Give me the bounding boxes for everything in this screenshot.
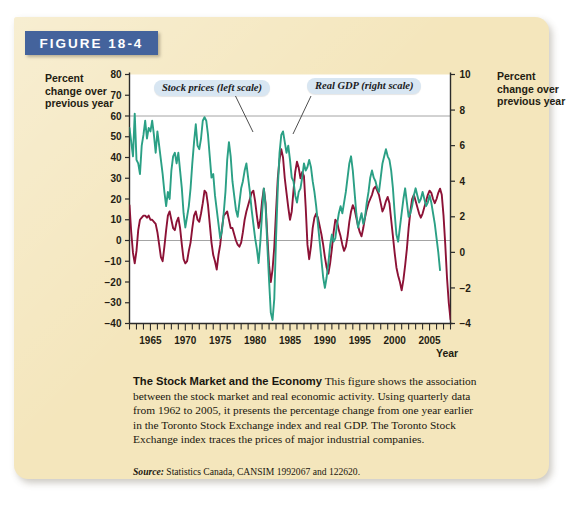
left-axis-tick-label: 40	[110, 152, 122, 163]
x-axis-tick-label: 1990	[314, 335, 337, 346]
callout-real-gdp: Real GDP (right scale)	[307, 78, 421, 94]
left-axis-tick-label: 80	[110, 69, 122, 80]
left-axis-tick-label: −30	[105, 297, 122, 308]
figure-root: FIGURE 18-4 Percent change over previous…	[0, 0, 580, 517]
left-axis-tick-label: 20	[110, 194, 122, 205]
right-axis-tick-label: 4	[460, 176, 466, 187]
x-axis-tick-label: 1995	[349, 335, 372, 346]
right-axis-tick-label: 10	[460, 69, 472, 80]
x-axis-tick-label: 1985	[279, 335, 302, 346]
left-axis-tick-label: −40	[105, 318, 122, 329]
figure-source: Source: Statistics Canada, CANSIM 199206…	[133, 466, 493, 477]
figure-caption: The Stock Market and the Economy This fi…	[133, 374, 481, 447]
x-axis-tick-label: 1975	[209, 335, 232, 346]
right-axis-tick-label: 2	[460, 211, 466, 222]
left-axis-tick-label: 0	[116, 235, 122, 246]
right-axis-tick-label: −4	[460, 318, 472, 329]
callout-stock-prices: Stock prices (left scale)	[154, 80, 270, 96]
x-axis-tick-label: 1970	[174, 335, 197, 346]
left-axis-tick-label: 10	[110, 214, 122, 225]
left-axis-tick-label: 70	[110, 90, 122, 101]
left-axis-tick-label: −10	[105, 256, 122, 267]
x-axis-tick-label: 2005	[418, 335, 441, 346]
right-axis-tick-label: 8	[460, 105, 466, 116]
x-axis-tick-label: 1980	[244, 335, 267, 346]
left-axis-tick-label: −20	[105, 277, 122, 288]
right-axis-tick-label: −2	[460, 283, 472, 294]
source-label: Source:	[133, 466, 164, 477]
left-axis-tick-label: 30	[110, 173, 122, 184]
x-axis-tick-label: 2000	[384, 335, 407, 346]
caption-title: The Stock Market and the Economy	[133, 375, 322, 387]
left-axis-tick-label: 60	[110, 111, 122, 122]
right-axis-tick-label: 0	[460, 247, 466, 258]
x-axis-tick-label: 1965	[139, 335, 162, 346]
left-axis-tick-label: 50	[110, 131, 122, 142]
source-text: Statistics Canada, CANSIM 1992067 and 12…	[166, 466, 360, 477]
right-axis-tick-label: 6	[460, 140, 466, 151]
